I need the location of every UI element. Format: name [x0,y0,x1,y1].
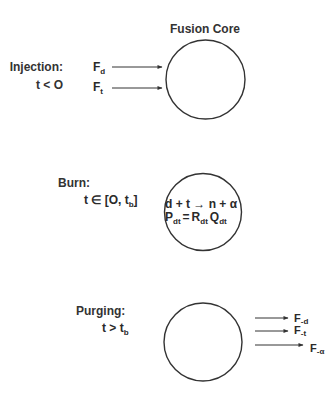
flow-in-ft-label: Ft [93,80,103,96]
fusion-core-circle-purging [164,303,242,381]
reaction-equation: d + t → n + α [165,197,238,211]
flow-in-fd-label: Fd [93,60,105,76]
fusion-phases-diagram: Fusion Core Injection: t < O Fd Ft Burn:… [0,0,333,400]
injection-label: Injection: [10,60,63,74]
power-equation: Pdt=RdtQdt [165,210,227,226]
burn-label: Burn: [58,176,90,190]
burn-condition: t ∈ [O, tb] [84,193,138,209]
fusion-core-circle-injection [166,40,245,119]
injection-phase: Injection: t < O Fd Ft [10,40,245,119]
purging-label: Purging: [76,304,125,318]
flow-out-falpha-label: F-α [310,342,324,356]
purging-phase: Purging: t > tb F-d F-t F-α [76,303,324,381]
fusion-core-circle-burn [165,174,242,251]
purging-condition: t > tb [102,321,129,337]
injection-condition: t < O [36,78,63,92]
burn-phase: Burn: t ∈ [O, tb] d + t → n + α Pdt=RdtQ… [58,174,242,251]
fusion-core-title: Fusion Core [170,22,240,36]
flow-out-ft-label: F-t [294,324,306,338]
